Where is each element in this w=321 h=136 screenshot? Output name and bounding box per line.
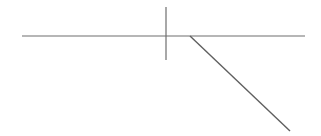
diagonal-branch xyxy=(190,36,290,131)
figure-canvas xyxy=(0,0,321,136)
line-diagram xyxy=(0,0,321,136)
